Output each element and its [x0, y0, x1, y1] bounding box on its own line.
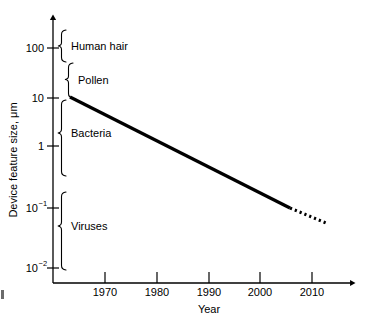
x-tick-label-2010: 2010: [300, 286, 324, 298]
y-tick-label-0.01: 10 −2: [26, 259, 47, 274]
annotation-label-pollen: Pollen: [78, 74, 109, 86]
x-tick-label-1990: 1990: [197, 286, 221, 298]
chart-figure: 100 10 1 10 −1 10 −2 1970 1980 1990 2000…: [0, 0, 365, 320]
brace-bacteria: [58, 100, 66, 176]
y-tick-label-10: 10: [32, 92, 44, 104]
annotation-label-bacteria: Bacteria: [71, 127, 112, 139]
annotation-label-viruses: Viruses: [71, 220, 108, 232]
page-edge-artifact: [1, 290, 4, 299]
y-tick-label-0.1: 10 −1: [26, 199, 47, 214]
y-tick-label-0.01-exponent: −2: [39, 259, 48, 268]
brace-human-hair: [58, 30, 66, 62]
y-tick-label-0.1-base: 10: [26, 202, 38, 214]
x-tick-label-1980: 1980: [145, 286, 169, 298]
trend-line-solid: [70, 97, 290, 208]
brace-pollen: [65, 63, 73, 98]
brace-viruses: [58, 192, 66, 270]
annotation-label-human-hair: Human hair: [71, 40, 128, 52]
x-tick-label-2000: 2000: [248, 286, 272, 298]
y-tick-label-1: 1: [38, 140, 44, 152]
chart-canvas: 100 10 1 10 −1 10 −2 1970 1980 1990 2000…: [0, 0, 365, 320]
x-tick-label-1970: 1970: [93, 286, 117, 298]
y-axis-title: Device feature size, μm: [7, 102, 19, 217]
y-tick-label-0.1-exponent: −1: [39, 199, 48, 208]
x-axis-title: Year: [198, 303, 221, 315]
y-tick-label-100: 100: [26, 42, 44, 54]
trend-line-dashed-projection: [290, 208, 326, 223]
y-tick-label-0.01-base: 10: [26, 262, 38, 274]
